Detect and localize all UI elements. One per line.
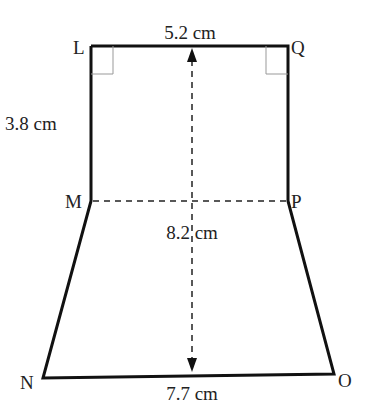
vertex-M: M [65,191,82,212]
arrow-down-icon [187,358,197,372]
shape-outline [43,46,334,378]
vertex-O: O [338,370,352,391]
composite-shape-diagram: 5.2 cm 3.8 cm 8.2 cm 7.7 cm L Q M P N O [0,0,371,413]
vertex-L: L [73,37,85,58]
label-height: 8.2 cm [166,222,218,243]
label-bottom-length: 7.7 cm [166,383,218,404]
vertex-Q: Q [291,37,305,58]
arrow-up-icon [187,48,197,62]
vertex-N: N [20,372,34,393]
label-side-length: 3.8 cm [5,113,57,134]
label-top-length: 5.2 cm [164,22,216,43]
right-angle-mark-Q [266,46,288,74]
right-angle-mark-L [91,46,113,74]
vertex-P: P [291,191,302,212]
